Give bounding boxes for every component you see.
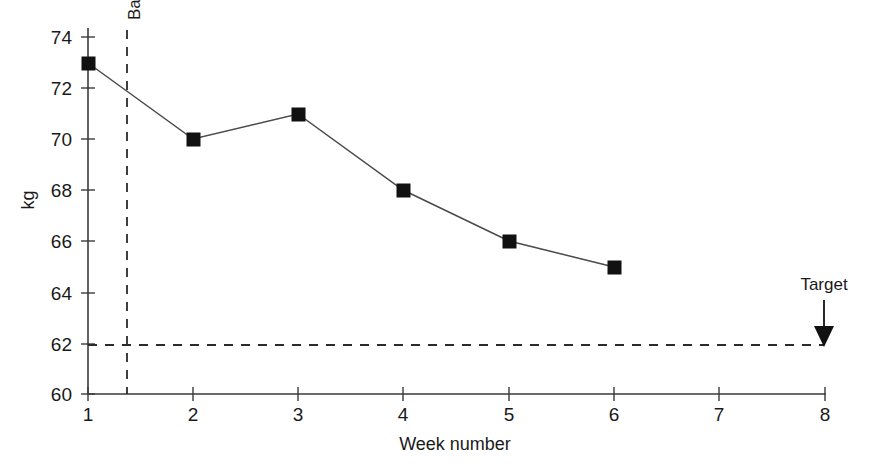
- x-tick-labels: 1 2 3 4 5 6 7 8: [83, 404, 831, 425]
- y-tick-labels: 74 72 70 68 66 64 62 60: [51, 27, 73, 405]
- y-tick-label-74: 74: [51, 27, 73, 48]
- data-point-week-1: [82, 57, 95, 70]
- target-arrow-icon: [814, 300, 834, 347]
- weight-series-line: [88, 63, 614, 267]
- data-point-week-6: [608, 261, 621, 274]
- x-tick-label-8: 8: [820, 404, 831, 425]
- target-annotation-label: Target: [800, 275, 848, 294]
- x-tick-label-2: 2: [188, 404, 199, 425]
- y-tick-label-72: 72: [51, 78, 72, 99]
- x-tick-label-6: 6: [609, 404, 620, 425]
- y-tick-label-70: 70: [51, 129, 72, 150]
- data-point-week-3: [292, 108, 305, 121]
- y-tick-label-68: 68: [51, 180, 72, 201]
- y-tick-label-66: 66: [51, 231, 72, 252]
- baseline-annotation-label: Baseline: [125, 0, 144, 20]
- data-point-week-4: [397, 184, 410, 197]
- x-tick-label-5: 5: [504, 404, 515, 425]
- axis-group: [88, 28, 826, 394]
- x-tick-label-7: 7: [714, 404, 725, 425]
- x-axis-title: Week number: [399, 434, 511, 454]
- weight-series-markers: [82, 57, 621, 274]
- y-tick-label-62: 62: [51, 334, 72, 355]
- y-axis-title: kg: [18, 190, 38, 209]
- x-tick-label-4: 4: [398, 404, 409, 425]
- y-tick-label-64: 64: [51, 283, 73, 304]
- x-tick-label-1: 1: [83, 404, 94, 425]
- weight-line-chart: 74 72 70 68 66 64 62 60 1 2 3 4 5: [0, 0, 875, 469]
- data-point-week-2: [187, 133, 200, 146]
- data-point-week-5: [503, 235, 516, 248]
- y-tick-label-60: 60: [51, 384, 72, 405]
- chart-canvas: 74 72 70 68 66 64 62 60 1 2 3 4 5: [0, 0, 875, 469]
- x-tick-label-3: 3: [293, 404, 304, 425]
